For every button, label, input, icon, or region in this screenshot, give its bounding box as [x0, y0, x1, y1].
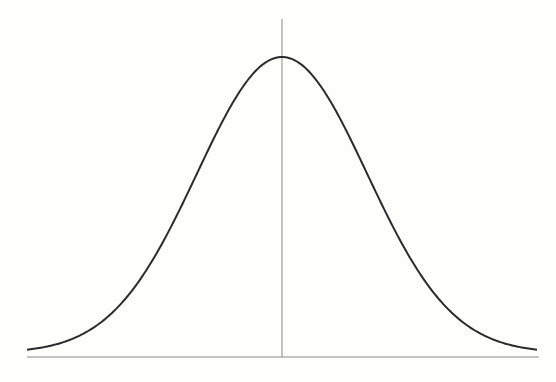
bell-curve-chart	[0, 0, 556, 382]
